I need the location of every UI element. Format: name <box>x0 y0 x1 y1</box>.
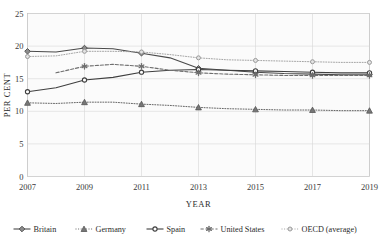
data-point-marker <box>311 60 315 64</box>
legend-item-spain[interactable]: Spain <box>147 225 186 234</box>
data-point-marker <box>140 50 144 54</box>
data-point-marker <box>254 58 258 62</box>
data-point-marker <box>25 90 29 94</box>
legend-item-britain[interactable]: Britain <box>14 225 57 234</box>
y-tick-label: 25 <box>15 9 24 19</box>
data-point-marker <box>153 227 157 231</box>
chart-legend: BritainGermanySpainUnited StatesOECD (av… <box>14 225 358 234</box>
legend-label: United States <box>221 225 265 234</box>
legend-label: Germany <box>96 225 127 234</box>
data-point-marker <box>82 78 86 82</box>
y-tick-label: 0 <box>19 172 23 182</box>
x-tick-label: 2007 <box>19 182 36 192</box>
legend-label: OECD (average) <box>302 225 358 234</box>
data-point-marker <box>368 60 372 64</box>
legend-item-germany[interactable]: Germany <box>76 225 127 234</box>
legend-item-united-states[interactable]: United States <box>201 225 265 234</box>
x-tick-label: 2015 <box>247 182 264 192</box>
y-tick-label: 20 <box>15 41 24 51</box>
x-axis-title: YEAR <box>186 199 212 209</box>
x-axis-ticks: 2007200920112013201520172019 <box>19 182 378 192</box>
x-tick-label: 2017 <box>304 182 321 192</box>
data-point-marker <box>197 56 201 60</box>
data-point-marker <box>288 227 292 231</box>
y-tick-label: 10 <box>15 106 24 116</box>
legend-label: Britain <box>34 225 57 234</box>
x-tick-label: 2011 <box>133 182 150 192</box>
line-chart: 0510152025 2007200920112013201520172019 … <box>0 0 379 243</box>
y-tick-label: 15 <box>15 74 24 84</box>
legend-label: Spain <box>167 225 186 234</box>
data-point-marker <box>19 226 25 232</box>
x-tick-label: 2019 <box>361 182 378 192</box>
chart-container: 0510152025 2007200920112013201520172019 … <box>0 0 379 243</box>
data-point-marker <box>139 70 143 74</box>
x-tick-label: 2013 <box>190 182 207 192</box>
x-tick-label: 2009 <box>76 182 93 192</box>
data-point-marker <box>83 49 87 53</box>
y-axis-ticks: 0510152025 <box>15 9 24 182</box>
y-axis-title: PER CENT <box>2 72 12 117</box>
data-point-marker <box>26 55 30 59</box>
legend-item-oecd-average[interactable]: OECD (average) <box>282 225 358 234</box>
y-tick-label: 5 <box>19 139 23 149</box>
